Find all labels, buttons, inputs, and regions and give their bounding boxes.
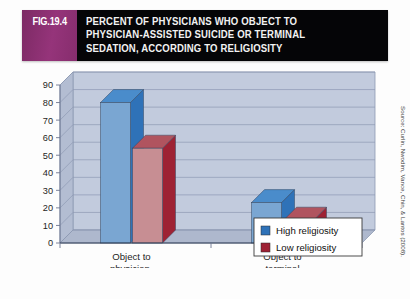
chart-left-wall — [60, 72, 73, 243]
source-note: Source: Curlin, Nwodim, Vance, Chin, & L… — [400, 106, 407, 257]
legend-label-high-religiosity: High religiosity — [276, 225, 339, 236]
figure-number-label: FIG.19.4 — [32, 16, 66, 27]
chart-x-category-label: Object to — [112, 251, 150, 262]
chart-y-tick-label: 10 — [43, 221, 53, 231]
chart-y-tick-label: 30 — [43, 186, 53, 196]
figure-title-bar: PERCENT OF PHYSICIANS WHO OBJECT TO PHYS… — [77, 10, 388, 61]
legend-swatch-high-religiosity — [261, 226, 270, 235]
chart-y-tick-label: 20 — [43, 203, 53, 213]
legend-swatch-low-religiosity — [261, 243, 270, 252]
chart-y-tick-label: 90 — [43, 80, 53, 90]
bar-front-face — [101, 103, 131, 243]
chart-x-category-label: terminal — [265, 263, 299, 269]
chart-y-tick-label: 0 — [48, 238, 53, 248]
chart-y-tick-label: 80 — [43, 98, 53, 108]
figure-root: FIG.19.4 PERCENT OF PHYSICIANS WHO OBJEC… — [0, 0, 410, 299]
figure-number-badge: FIG.19.4 — [22, 10, 77, 61]
bar-chart: 0102030405060708090Object tophysician-as… — [22, 68, 388, 268]
figure-title-line-1: PERCENT OF PHYSICIANS WHO OBJECT TO — [86, 15, 361, 28]
figure-title-line-2: PHYSICIAN-ASSISTED SUICIDE OR TERMINAL — [86, 28, 361, 41]
chart-y-tick-label: 60 — [43, 133, 53, 143]
chart-area: 0102030405060708090Object tophysician-as… — [22, 68, 388, 268]
figure-title-line-3: SEDATION, ACCORDING TO RELIGIOSITY — [86, 42, 361, 55]
chart-x-category-label: physician- — [110, 263, 153, 269]
figure-header: FIG.19.4 PERCENT OF PHYSICIANS WHO OBJEC… — [22, 10, 388, 61]
legend-label-low-religiosity: Low religiosity — [276, 242, 336, 253]
bar-front-face — [133, 148, 163, 243]
chart-y-tick-label: 40 — [43, 168, 53, 178]
source-note-wrap: Source: Curlin, Nwodim, Vance, Chin, & L… — [396, 106, 410, 276]
bar-side-face — [163, 135, 176, 243]
chart-y-tick-label: 50 — [43, 151, 53, 161]
chart-y-tick-label: 70 — [43, 116, 53, 126]
bar-1 — [133, 135, 176, 243]
